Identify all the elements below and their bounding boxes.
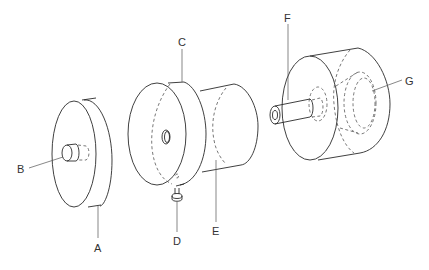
- right-cylinder-back-end: [358, 48, 390, 153]
- middle-assembly-parts-c-e: [128, 82, 258, 186]
- shaft-step: [310, 99, 313, 117]
- right-cylinder-top-edge: [310, 48, 358, 56]
- label-a: A: [94, 242, 102, 254]
- flange-front-face: [128, 83, 186, 185]
- screw-head-top: [172, 194, 182, 199]
- label-g: G: [405, 75, 414, 87]
- hub-front-face: [62, 145, 72, 161]
- leader-g: [372, 80, 402, 91]
- right-cylinder-bottom-edge: [318, 153, 360, 160]
- flange-top-edge: [168, 82, 184, 83]
- label-e: E: [212, 225, 219, 237]
- thumb-screw-part-d: [172, 174, 182, 201]
- left-disc-bottom-edge: [88, 205, 101, 207]
- hub-step: [76, 144, 79, 161]
- cylinder-back-end: [234, 84, 258, 165]
- shaft-end-face: [270, 106, 280, 124]
- left-disc-front-face: [52, 101, 96, 207]
- shaft-hidden: [312, 98, 323, 117]
- label-d: D: [173, 235, 181, 247]
- label-c: C: [178, 36, 186, 48]
- cylinder-top-edge: [200, 84, 234, 91]
- cylinder-bottom-edge: [202, 165, 241, 172]
- hub-hidden-lines: [78, 145, 89, 160]
- flange-center-hole-inner: [165, 132, 170, 143]
- left-disc-back-rim: [84, 100, 112, 206]
- left-disc-part-a: [52, 98, 112, 207]
- cylinder-hidden-edge: [213, 88, 226, 164]
- leader-b: [29, 157, 63, 168]
- label-f: F: [284, 12, 291, 24]
- bore-inner-hidden: [353, 78, 375, 128]
- left-disc-top-edge: [82, 98, 96, 100]
- exploded-assembly-diagram: A B C D E F G: [0, 0, 429, 270]
- screw-hole-hidden: [176, 174, 179, 178]
- label-b: B: [17, 163, 24, 175]
- bore-hidden-lines: [336, 72, 358, 133]
- shaft-center-bore: [273, 111, 278, 120]
- flange-back-rim: [180, 82, 206, 185]
- right-cylinder-front-face: [282, 56, 338, 160]
- bore-outer-hidden: [344, 72, 376, 134]
- hub-body: [67, 144, 76, 161]
- shaft-body: [275, 99, 310, 124]
